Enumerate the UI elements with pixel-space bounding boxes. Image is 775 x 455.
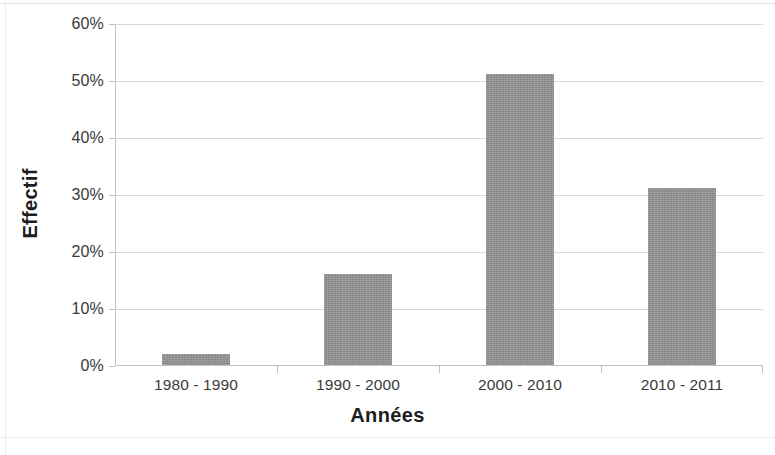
x-axis-tick-label: 1990 - 2000 xyxy=(277,376,439,394)
y-axis-title-label: Effectif xyxy=(19,168,42,238)
gridline xyxy=(115,24,763,25)
bar[interactable] xyxy=(324,274,392,365)
x-axis-category-separator xyxy=(439,366,440,373)
y-axis-tick xyxy=(109,252,115,253)
y-axis-tick-label: 0% xyxy=(80,357,104,375)
bar-chart: Effectif 0%10%20%30%40%50%60% Années 198… xyxy=(0,0,775,455)
y-axis-tick-label: 30% xyxy=(71,186,104,204)
y-axis-tick-label: 50% xyxy=(71,72,104,90)
y-axis-tick xyxy=(109,81,115,82)
y-axis-tick-label: 10% xyxy=(71,300,104,318)
x-axis-tick-label: 2010 - 2011 xyxy=(601,376,763,394)
y-axis-tick-label: 60% xyxy=(71,15,104,33)
y-axis-tick xyxy=(109,309,115,310)
x-axis-category-separator xyxy=(277,366,278,373)
gridline xyxy=(115,81,763,82)
y-axis-tick xyxy=(109,138,115,139)
x-axis-tick-label: 1980 - 1990 xyxy=(115,376,277,394)
bar[interactable] xyxy=(648,188,716,365)
x-axis-title: Années xyxy=(0,404,775,427)
plot-area: 0%10%20%30%40%50%60% xyxy=(115,24,763,366)
y-axis-tick xyxy=(109,195,115,196)
x-axis-category-separator xyxy=(601,366,602,373)
gridline xyxy=(115,138,763,139)
y-axis-tick-label: 40% xyxy=(71,129,104,147)
y-axis-title: Effectif xyxy=(10,128,50,278)
bar[interactable] xyxy=(162,354,230,365)
y-axis-tick-label: 20% xyxy=(71,243,104,261)
bar[interactable] xyxy=(486,74,554,365)
x-axis-end-tick xyxy=(762,366,763,373)
y-axis-tick xyxy=(109,366,115,367)
x-axis-tick-label: 2000 - 2010 xyxy=(439,376,601,394)
y-axis-tick xyxy=(109,24,115,25)
